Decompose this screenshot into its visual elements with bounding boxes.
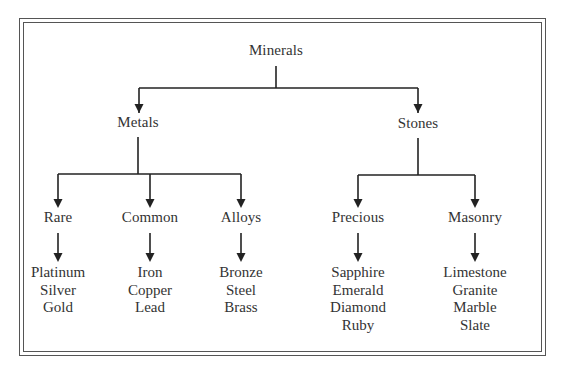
leaf-item: Marble [443,299,506,317]
leaf-item: Brass [219,299,262,317]
leaf-list-masonry: Limestone Granite Marble Slate [443,264,506,334]
leaf-item: Platinum [31,264,85,282]
arrow-down-icon [237,253,246,262]
connector-leaves [58,233,475,255]
connector-stones [358,138,475,200]
node-rare: Rare [44,209,73,227]
arrow-down-icon [146,253,155,262]
node-stones: Stones [398,115,439,133]
leaf-item: Slate [443,317,506,335]
arrow-down-icon [146,199,155,208]
arrow-down-icon [471,253,480,262]
leaf-item: Sapphire [330,264,386,282]
leaf-item: Emerald [330,282,386,300]
arrow-down-icon [54,199,63,208]
arrow-down-icon [237,199,246,208]
arrow-down-icon [135,104,144,113]
leaf-item: Iron [128,264,172,282]
leaf-item: Gold [31,299,85,317]
leaf-item: Steel [219,282,262,300]
arrow-down-icon [354,199,363,208]
leaf-list-common: Iron Copper Lead [128,264,172,317]
leaf-item: Limestone [443,264,506,282]
arrow-down-icon [414,104,423,113]
connector-metals [58,137,241,200]
node-masonry: Masonry [448,209,502,227]
connector-root [139,66,418,113]
leaf-list-rare: Platinum Silver Gold [31,264,85,317]
node-precious: Precious [332,209,384,227]
leaf-item: Diamond [330,299,386,317]
arrow-down-icon [471,199,480,208]
arrow-down-icon [354,253,363,262]
arrow-down-icon [54,253,63,262]
node-root-minerals: Minerals [249,42,303,60]
leaf-item: Copper [128,282,172,300]
node-metals: Metals [117,114,158,132]
node-common: Common [122,209,178,227]
leaf-list-precious: Sapphire Emerald Diamond Ruby [330,264,386,334]
leaf-list-alloys: Bronze Steel Brass [219,264,262,317]
leaf-item: Granite [443,282,506,300]
leaf-item: Ruby [330,317,386,335]
leaf-item: Silver [31,282,85,300]
leaf-item: Lead [128,299,172,317]
leaf-item: Bronze [219,264,262,282]
node-alloys: Alloys [221,209,262,227]
